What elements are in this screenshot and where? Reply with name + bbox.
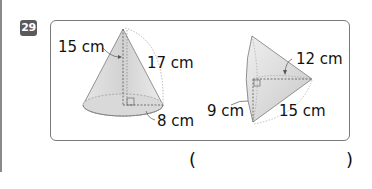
answer-open-paren: ( — [189, 150, 196, 170]
answer-blank[interactable] — [200, 148, 340, 170]
label-slant-17cm: 17 cm — [147, 56, 194, 71]
label-slant-15cm-right: 15 cm — [279, 104, 326, 119]
label-radius-8cm: 8 cm — [157, 114, 194, 129]
label-radius-9cm: 9 cm — [207, 104, 244, 119]
label-height-12cm: 12 cm — [296, 52, 343, 67]
answer-close-paren: ) — [346, 150, 353, 170]
label-slant-15cm: 15 cm — [58, 40, 105, 55]
